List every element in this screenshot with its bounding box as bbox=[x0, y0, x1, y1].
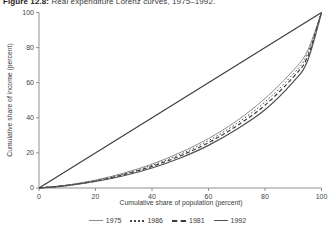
legend-label: 1992 bbox=[231, 217, 247, 224]
legend-swatch-dotted bbox=[130, 220, 144, 222]
legend-item-1992: 1992 bbox=[214, 217, 247, 224]
y-tick-label: 60 bbox=[26, 79, 34, 86]
lorenz-curve-figure: Figure 12.8: Real expenditure Lorenz cur… bbox=[0, 0, 335, 233]
y-tick-label: 40 bbox=[26, 114, 34, 121]
legend-label: 1981 bbox=[189, 217, 205, 224]
legend-label: 1975 bbox=[106, 217, 122, 224]
legend-swatch-solid bbox=[89, 220, 103, 221]
legend-swatch-dashed bbox=[172, 220, 186, 222]
legend-item-1975: 1975 bbox=[89, 217, 122, 224]
legend-swatch-solid bbox=[214, 220, 228, 221]
equality-line bbox=[39, 13, 322, 189]
legend-item-1986: 1986 bbox=[130, 217, 163, 224]
x-tick-label: 20 bbox=[92, 193, 100, 200]
x-tick-label: 0 bbox=[37, 193, 41, 200]
legend-item-1981: 1981 bbox=[172, 217, 205, 224]
x-tick-label: 100 bbox=[316, 193, 328, 200]
legend-label: 1986 bbox=[147, 217, 163, 224]
y-tick-label: 100 bbox=[22, 9, 34, 16]
x-axis-title: Cumulative share of population (percent) bbox=[120, 199, 243, 206]
legend: 1975198619811992 bbox=[0, 217, 335, 224]
y-tick-label: 80 bbox=[26, 44, 34, 51]
y-tick-label: 20 bbox=[26, 149, 34, 156]
y-tick-label: 0 bbox=[30, 184, 34, 191]
x-tick-label: 80 bbox=[261, 193, 269, 200]
